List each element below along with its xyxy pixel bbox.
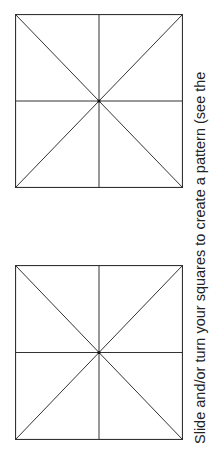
quartered-square-diagram: [15, 14, 183, 188]
instruction-text: Slide and/or turn your squares to create…: [193, 4, 208, 444]
pattern-square-bottom: [15, 265, 183, 440]
pattern-square-top: [15, 14, 183, 188]
quartered-square-diagram: [15, 265, 183, 440]
